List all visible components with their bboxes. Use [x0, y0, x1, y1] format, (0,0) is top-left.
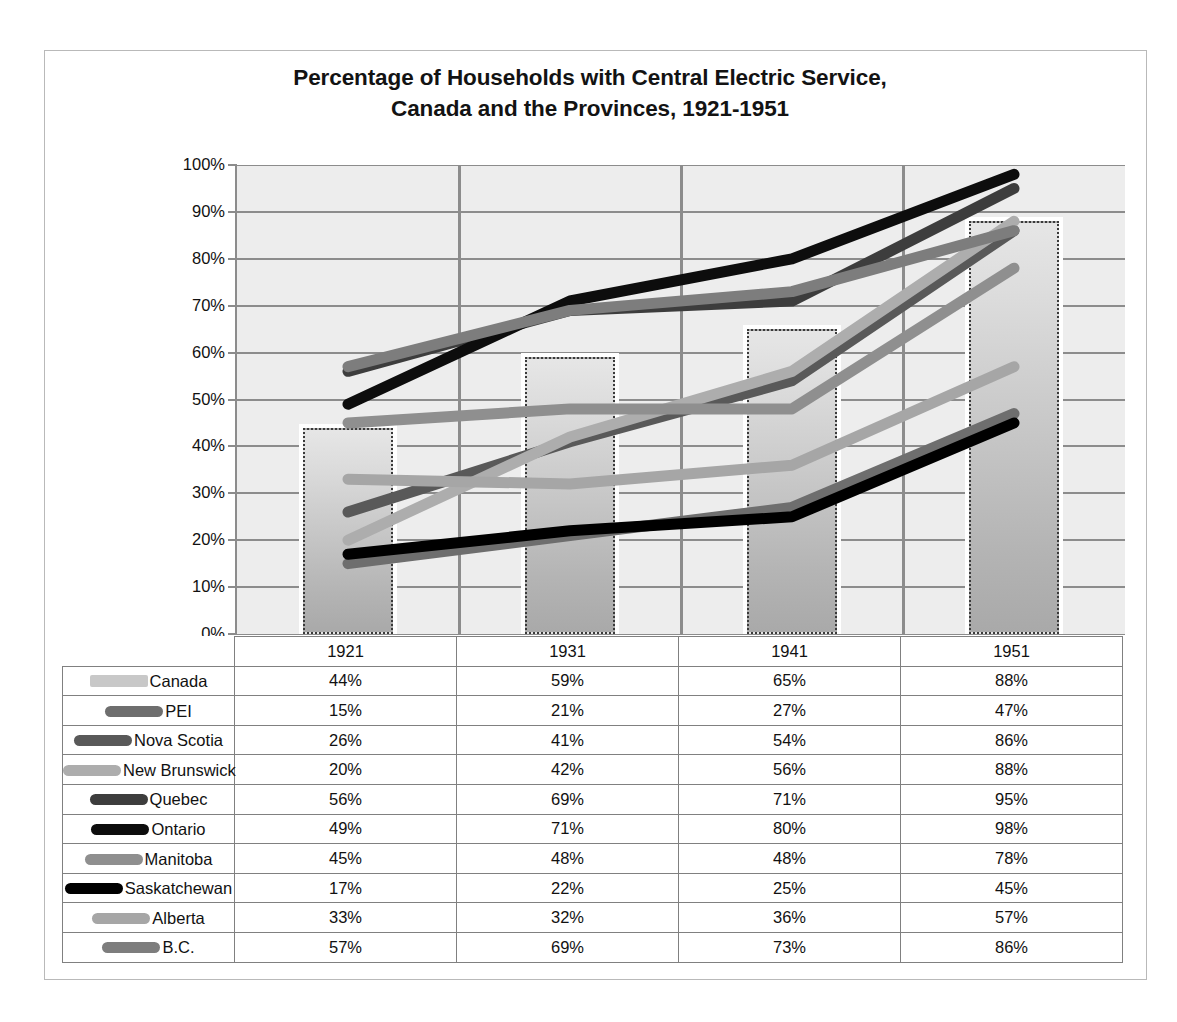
y-axis-tick: [228, 539, 236, 541]
table-cell-value: 45%: [235, 844, 457, 874]
table-header-year: 1931: [457, 637, 679, 667]
y-axis-tick: [228, 586, 236, 588]
table-cell-value: 49%: [235, 814, 457, 844]
table-head: 1921193119411951: [63, 637, 1123, 667]
table-cell-value: 86%: [901, 725, 1123, 755]
y-axis-tick: [228, 445, 236, 447]
legend-row-saskatchewan: Saskatchewan: [63, 873, 235, 903]
table-cell-value: 42%: [457, 755, 679, 785]
legend-label: Saskatchewan: [125, 879, 232, 898]
table-row: Alberta33%32%36%57%: [63, 903, 1123, 933]
legend-swatch-icon: [74, 735, 132, 746]
table-cell-value: 78%: [901, 844, 1123, 874]
data-table: 1921193119411951 Canada44%59%65%88%PEI15…: [62, 636, 1123, 963]
legend-swatch-icon: [92, 913, 150, 924]
table-cell-value: 27%: [679, 696, 901, 726]
chart-title: Percentage of Households with Central El…: [150, 62, 1030, 124]
y-axis-tick-label: 80%: [155, 249, 225, 268]
table-body: Canada44%59%65%88%PEI15%21%27%47%Nova Sc…: [63, 666, 1123, 962]
table-cell-value: 69%: [457, 932, 679, 962]
table-cell-value: 25%: [679, 873, 901, 903]
y-axis-tick: [228, 211, 236, 213]
table-cell-value: 59%: [457, 666, 679, 696]
table-cell-value: 69%: [457, 784, 679, 814]
legend-row-new-brunswick: New Brunswick: [63, 755, 235, 785]
chart-title-line-1: Percentage of Households with Central El…: [150, 62, 1030, 93]
legend-row-pei: PEI: [63, 696, 235, 726]
y-axis-tick-label: 70%: [155, 296, 225, 315]
table-cell-value: 80%: [679, 814, 901, 844]
table-cell-value: 56%: [235, 784, 457, 814]
table-cell-value: 44%: [235, 666, 457, 696]
legend-label: New Brunswick: [123, 761, 236, 780]
y-axis-tick-label: 30%: [155, 483, 225, 502]
table-cell-value: 17%: [235, 873, 457, 903]
table-cell-value: 73%: [679, 932, 901, 962]
y-axis-tick: [228, 492, 236, 494]
y-axis-tick: [228, 258, 236, 260]
legend-swatch-icon: [90, 794, 148, 805]
table-row: Nova Scotia26%41%54%86%: [63, 725, 1123, 755]
legend-row-quebec: Quebec: [63, 784, 235, 814]
table-row: New Brunswick20%42%56%88%: [63, 755, 1123, 785]
legend-swatch-icon: [65, 883, 123, 894]
table-row: Saskatchewan17%22%25%45%: [63, 873, 1123, 903]
legend-row-ontario: Ontario: [63, 814, 235, 844]
table-cell-value: 98%: [901, 814, 1123, 844]
legend-row-nova-scotia: Nova Scotia: [63, 725, 235, 755]
table-row: Manitoba45%48%48%78%: [63, 844, 1123, 874]
y-axis-tick: [228, 633, 236, 635]
table-row: Ontario49%71%80%98%: [63, 814, 1123, 844]
legend-swatch-icon: [90, 675, 148, 687]
table-cell-value: 71%: [679, 784, 901, 814]
table-cell-value: 71%: [457, 814, 679, 844]
table-cell-value: 20%: [235, 755, 457, 785]
table-cell-value: 48%: [679, 844, 901, 874]
chart-title-line-2: Canada and the Provinces, 1921-1951: [150, 93, 1030, 124]
y-axis-tick-label: 60%: [155, 343, 225, 362]
table-cell-value: 41%: [457, 725, 679, 755]
table-cell-value: 47%: [901, 696, 1123, 726]
table-cell-value: 88%: [901, 666, 1123, 696]
y-axis-tick-label: 20%: [155, 530, 225, 549]
legend-row-canada: Canada: [63, 666, 235, 696]
table-cell-value: 54%: [679, 725, 901, 755]
table-cell-value: 33%: [235, 903, 457, 933]
y-axis-labels: 0%10%20%30%40%50%60%70%80%90%100%: [150, 165, 225, 634]
table-row: B.C.57%69%73%86%: [63, 932, 1123, 962]
y-axis-tick-label: 10%: [155, 577, 225, 596]
y-axis-tick: [228, 399, 236, 401]
legend-swatch-icon: [91, 824, 149, 835]
y-axis-tick: [228, 305, 236, 307]
legend-swatch-icon: [85, 854, 143, 865]
table-cell-value: 86%: [901, 932, 1123, 962]
legend-swatch-icon: [105, 706, 163, 717]
y-axis-tick-label: 40%: [155, 436, 225, 455]
table-cell-value: 45%: [901, 873, 1123, 903]
legend-swatch-icon: [63, 765, 121, 776]
table-cell-value: 57%: [235, 932, 457, 962]
legend-label: B.C.: [162, 938, 194, 957]
legend-label: Canada: [150, 672, 208, 691]
table-header-row: 1921193119411951: [63, 637, 1123, 667]
table-header-year: 1941: [679, 637, 901, 667]
table-cell-value: 15%: [235, 696, 457, 726]
legend-row-alberta: Alberta: [63, 903, 235, 933]
legend-label: Manitoba: [145, 850, 213, 869]
table-cell-value: 22%: [457, 873, 679, 903]
table-header-legend: [63, 637, 235, 667]
chart-screenshot: Percentage of Households with Central El…: [0, 0, 1177, 1022]
legend-label: Nova Scotia: [134, 731, 223, 750]
table-cell-value: 48%: [457, 844, 679, 874]
legend-row-b-c: B.C.: [63, 932, 235, 962]
table-cell-value: 32%: [457, 903, 679, 933]
table-cell-value: 88%: [901, 755, 1123, 785]
table-cell-value: 36%: [679, 903, 901, 933]
legend-label: Quebec: [150, 790, 208, 809]
legend-label: Ontario: [151, 820, 205, 839]
line-new-brunswick: [348, 221, 1014, 540]
legend-label: PEI: [165, 702, 192, 721]
y-axis-tick: [228, 352, 236, 354]
y-axis-tick-label: 100%: [155, 155, 225, 174]
table-row: Quebec56%69%71%95%: [63, 784, 1123, 814]
